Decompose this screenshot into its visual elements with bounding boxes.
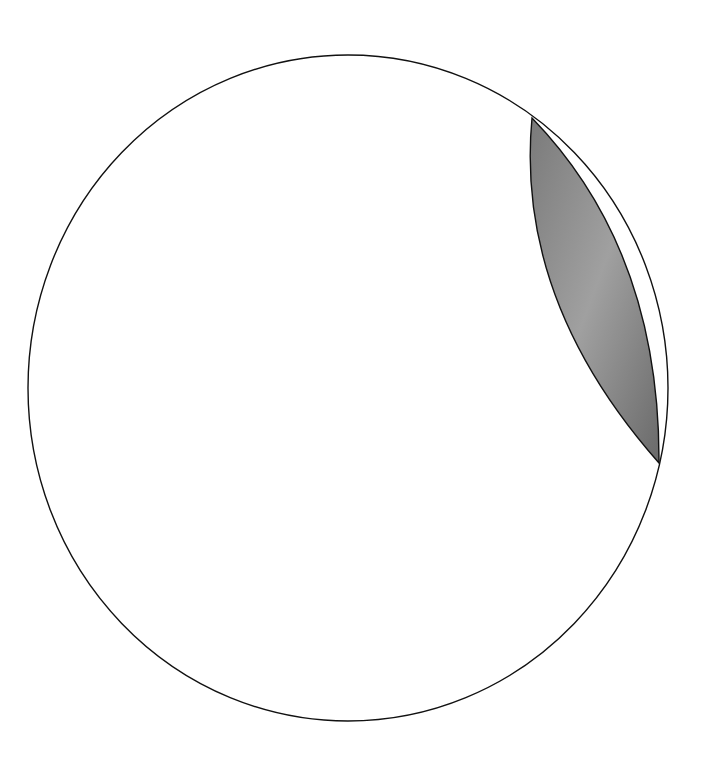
diagram-canvas bbox=[0, 0, 714, 761]
outer-circle bbox=[28, 55, 668, 721]
